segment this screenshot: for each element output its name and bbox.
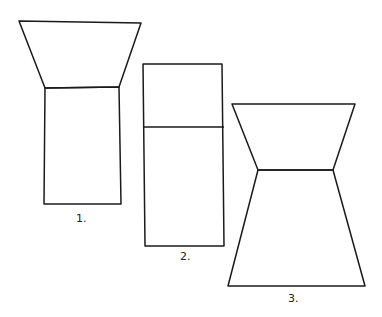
figure-1 [19,21,141,204]
figure-3 [228,104,365,286]
diagram-canvas [0,0,382,317]
figure-3-label: 3. [288,292,299,305]
figure-2-label: 2. [180,250,191,263]
figure-2 [143,64,224,246]
figure-1-rectangle [44,87,121,204]
figure-3-bottom-trapezoid [228,170,365,286]
figure-1-label: 1. [76,212,87,225]
figure-1-top-trapezoid [19,21,141,88]
figure-3-top-trapezoid [232,104,355,170]
figure-2-rectangle [143,64,224,246]
